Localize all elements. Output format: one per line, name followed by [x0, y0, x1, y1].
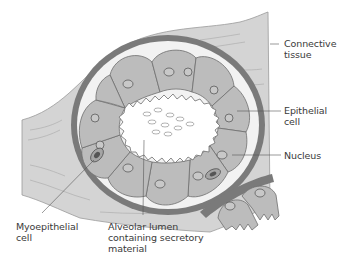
label-epithelial-cell: Epithelial cell	[284, 105, 327, 127]
label-myoepithelial-cell: Myoepithelial cell	[16, 221, 78, 243]
label-connective-tissue: Connective tissue	[284, 38, 336, 60]
label-alveolar-lumen: Alveolar lumen containing secretory mate…	[108, 221, 204, 254]
label-nucleus: Nucleus	[284, 150, 321, 161]
